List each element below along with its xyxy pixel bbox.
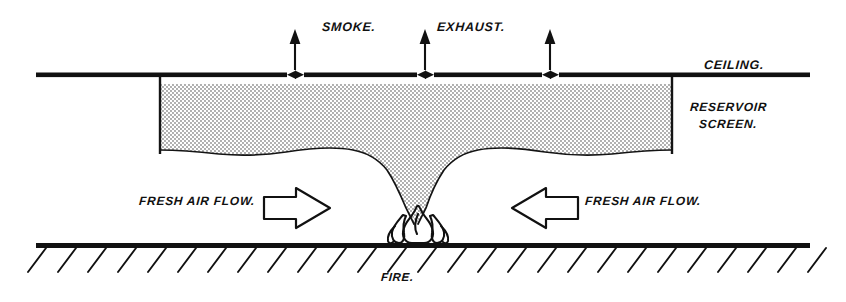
label-reservoir-screen-line2: SCREEN. bbox=[699, 117, 758, 131]
airflow-arrow-right bbox=[512, 188, 578, 228]
floor-line bbox=[36, 243, 810, 248]
diagram-canvas: SMOKE. EXHAUST. CEILING. RESERVOIR SCREE… bbox=[0, 0, 846, 302]
smoke-reservoir-diagram bbox=[0, 0, 846, 302]
label-exhaust: EXHAUST. bbox=[437, 20, 506, 34]
floor-hatching bbox=[28, 248, 826, 272]
ceiling-line bbox=[36, 71, 810, 79]
exhaust-arrow-1 bbox=[290, 29, 301, 70]
label-smoke: SMOKE. bbox=[322, 20, 377, 34]
label-ceiling: CEILING. bbox=[704, 58, 765, 72]
airflow-arrow-left bbox=[264, 188, 330, 228]
label-fresh-air-flow-left: FRESH AIR FLOW. bbox=[139, 194, 256, 208]
exhaust-arrow-3 bbox=[545, 29, 556, 70]
label-reservoir-screen-line1: RESERVOIR bbox=[690, 100, 768, 114]
label-fire: FIRE. bbox=[381, 271, 415, 283]
exhaust-arrow-2 bbox=[420, 29, 431, 70]
label-fresh-air-flow-right: FRESH AIR FLOW. bbox=[585, 194, 702, 208]
